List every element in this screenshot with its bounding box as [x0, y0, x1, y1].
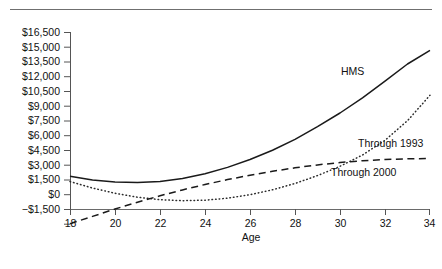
series-label-through-1993: Through 1993 — [358, 138, 423, 149]
y-tick-label: $12,000 — [2, 71, 60, 82]
x-tick-label: 30 — [326, 218, 355, 229]
x-tick-label: 22 — [146, 218, 175, 229]
y-tick-label: $13,500 — [2, 56, 60, 67]
y-tick-label: $7,500 — [2, 115, 60, 126]
series-label-through-2000: Through 2000 — [331, 167, 396, 178]
x-tick-label: 32 — [371, 218, 400, 229]
x-tick-label: 20 — [101, 218, 130, 229]
y-tick-label: $16,500 — [2, 27, 60, 38]
x-axis-title: Age — [222, 232, 280, 243]
y-tick-label: $0 — [2, 189, 60, 200]
x-tick-label: 34 — [415, 218, 442, 229]
x-tick-label: 28 — [281, 218, 310, 229]
x-tick-label: 26 — [236, 218, 265, 229]
y-tick-label: $10,500 — [2, 86, 60, 97]
y-tick-label: $9,000 — [2, 101, 60, 112]
y-tick-label: −$1,500 — [2, 204, 60, 215]
chart-figure: $16,500 $15,000 $13,500 $12,000 $10,500 … — [0, 0, 442, 269]
y-tick-label: $3,000 — [2, 160, 60, 171]
y-tick-label: $4,500 — [2, 145, 60, 156]
y-tick-label: $1,500 — [2, 174, 60, 185]
y-tick-label: $6,000 — [2, 130, 60, 141]
x-tick-label: 24 — [191, 218, 220, 229]
series-line-hms — [70, 50, 430, 182]
y-axis-ticks — [64, 33, 70, 225]
series-label-hms: HMS — [341, 66, 364, 77]
x-tick-label: 18 — [56, 218, 85, 229]
y-tick-label: $15,000 — [2, 42, 60, 53]
